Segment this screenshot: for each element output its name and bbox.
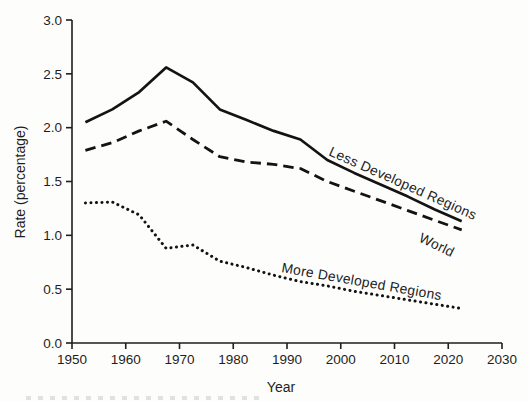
y-tick-label: 1.0 [43,228,62,243]
x-tick-label: 2030 [487,352,517,367]
series-line-less-developed-regions [85,67,461,221]
y-axis-title: Rate (percentage) [12,126,28,239]
x-tick-label: 2000 [326,352,356,367]
x-tick-label: 1980 [218,352,248,367]
y-tick-label: 1.5 [43,174,62,189]
axes-group: 0.00.51.01.52.02.53.01950196019701980199… [43,13,517,367]
y-tick-label: 2.0 [43,120,62,135]
y-tick-label: 0.0 [43,336,62,351]
series-label-more-developed-regions: More Developed Regions [280,260,442,303]
y-tick-label: 2.5 [43,67,62,82]
x-tick-label: 2020 [433,352,463,367]
figure: 0.00.51.01.52.02.53.01950196019701980199… [0,0,529,401]
x-tick-label: 1990 [272,352,302,367]
x-axis-title: Year [267,379,296,395]
y-tick-label: 3.0 [43,13,62,28]
x-tick-label: 1960 [111,352,141,367]
cropped-caption-fragment [26,396,266,400]
series-label-less-developed-regions: Less Developed Regions [327,144,479,223]
x-tick-label: 1950 [57,352,87,367]
x-tick-label: 2010 [379,352,409,367]
x-tick-label: 1970 [164,352,194,367]
series-label-world: World [417,230,457,260]
growth-rate-line-chart: 0.00.51.01.52.02.53.01950196019701980199… [0,0,529,401]
y-tick-label: 0.5 [43,282,62,297]
